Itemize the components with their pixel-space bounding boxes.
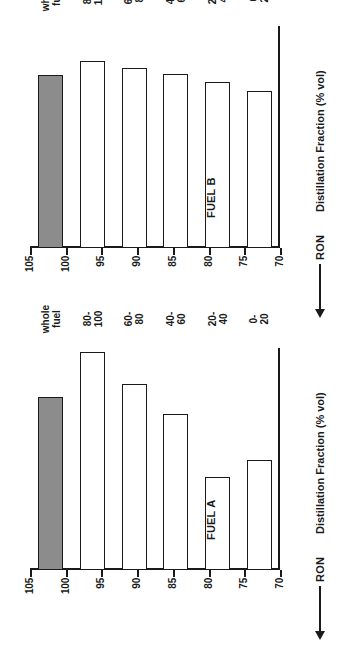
category-tick-label: 80-100 [82, 0, 104, 20]
value-tick-label: 85 [168, 578, 178, 604]
chart-fuel-a: 707580859095100105 FUEL A Distillation F… [0, 322, 344, 644]
value-tick [101, 570, 103, 577]
value-tick [209, 570, 211, 577]
value-axis-annotation-fuel-b: RON [314, 235, 326, 318]
value-tick [66, 248, 68, 255]
value-tick-label: 70 [275, 256, 285, 282]
category-tick-label: wholefuel [40, 0, 62, 20]
value-tick-label: 75 [239, 256, 249, 282]
value-tick-label: 95 [96, 256, 106, 282]
value-tick-label: 100 [61, 578, 71, 604]
bar-60-80 [122, 384, 147, 570]
bar-whole-fuel [38, 75, 63, 248]
category-tick-label: 0-20 [248, 0, 270, 20]
value-tick [244, 570, 246, 577]
category-tick-label: 40-60 [165, 0, 187, 20]
category-axis-title-fuel-b: Distillation Fraction (% vol) [314, 70, 326, 212]
bar-whole-fuel [38, 397, 63, 570]
category-tick-label: 40-60 [165, 296, 187, 342]
bar-0-20 [247, 91, 272, 248]
bar-20-40 [205, 82, 230, 248]
left-arrow-icon [315, 264, 325, 318]
value-tick [209, 248, 211, 255]
category-tick-label: wholefuel [40, 296, 62, 342]
category-tick-label: 20-40 [207, 0, 229, 20]
left-arrow-icon [315, 586, 325, 640]
value-tick [30, 248, 32, 255]
bar-80-100 [80, 61, 105, 248]
bar-group-fuel-b [30, 26, 280, 248]
value-axis-title-fuel-a: RON [314, 557, 326, 582]
series-title-fuel-b: FUEL B [205, 177, 217, 218]
bar-80-100 [80, 352, 105, 570]
value-tick [137, 248, 139, 255]
value-tick-label: 75 [239, 578, 249, 604]
value-tick [244, 248, 246, 255]
category-axis-title-fuel-a: Distillation Fraction (% vol) [314, 392, 326, 534]
value-tick-label: 90 [132, 256, 142, 282]
value-tick-label: 100 [61, 256, 71, 282]
value-tick [30, 570, 32, 577]
value-tick [101, 248, 103, 255]
value-tick [137, 570, 139, 577]
chart-fuel-b: 707580859095100105 FUEL B Distillation F… [0, 0, 344, 322]
category-tick-label: 60-80 [123, 0, 145, 20]
series-title-fuel-a: FUEL A [205, 500, 217, 540]
category-tick-label: 60-80 [123, 296, 145, 342]
value-axis-annotation-fuel-a: RON [314, 557, 326, 640]
value-tick-label: 105 [25, 578, 35, 604]
category-tick-label: 20-40 [207, 296, 229, 342]
plot-area-fuel-b: 707580859095100105 [30, 26, 280, 248]
value-tick-label: 80 [204, 256, 214, 282]
bar-40-60 [163, 414, 188, 570]
category-tick-label: 80-100 [82, 296, 104, 342]
value-tick-label: 95 [96, 578, 106, 604]
value-tick [66, 570, 68, 577]
bar-40-60 [163, 74, 188, 248]
category-tick-label: 0-20 [248, 296, 270, 342]
value-tick-label: 80 [204, 578, 214, 604]
value-tick [280, 570, 282, 577]
value-tick [173, 248, 175, 255]
value-tick-label: 85 [168, 256, 178, 282]
value-tick [173, 570, 175, 577]
bar-0-20 [247, 460, 272, 570]
value-tick-label: 105 [25, 256, 35, 282]
bar-group-fuel-a [30, 348, 280, 570]
bar-60-80 [122, 68, 147, 248]
value-tick-label: 90 [132, 578, 142, 604]
value-tick [280, 248, 282, 255]
value-axis-title-fuel-b: RON [314, 235, 326, 260]
plot-area-fuel-a: 707580859095100105 [30, 348, 280, 570]
value-tick-label: 70 [275, 578, 285, 604]
